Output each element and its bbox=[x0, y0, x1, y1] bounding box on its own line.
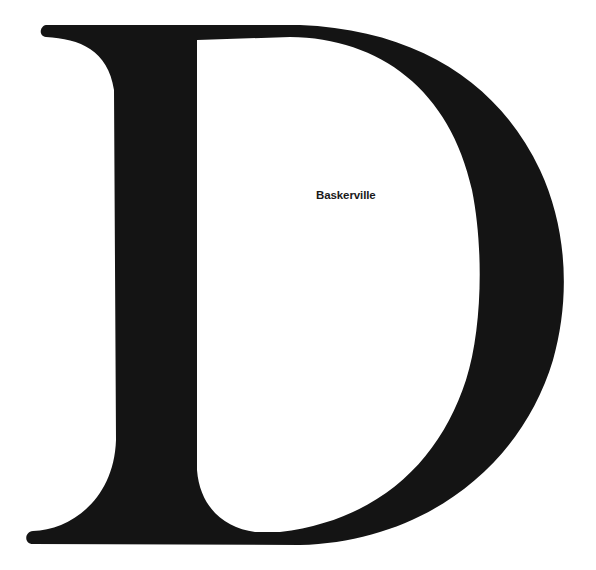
letter-d-glyph bbox=[0, 0, 596, 570]
typeface-name-label: Baskerville bbox=[316, 189, 376, 201]
letter-d-shape bbox=[26, 25, 564, 545]
